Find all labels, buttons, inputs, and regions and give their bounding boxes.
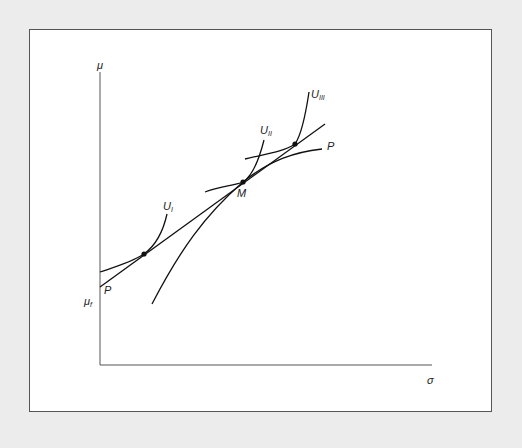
u1-label: UI xyxy=(163,200,173,213)
tangency-point-u1 xyxy=(141,251,146,256)
risk-free-label: μf xyxy=(83,295,93,308)
efficient-frontier-curve xyxy=(152,149,322,304)
market-portfolio-label: M xyxy=(237,187,247,199)
y-axis-label: μ xyxy=(96,59,103,71)
indifference-curve-u3 xyxy=(245,92,309,159)
tangency-point-u3 xyxy=(292,141,297,146)
line-end-label: P xyxy=(327,140,335,152)
capital-market-line xyxy=(100,124,325,287)
line-start-label: P xyxy=(104,284,112,296)
portfolio-diagram: μ σ μf P P M UI UII UIII xyxy=(0,0,522,448)
x-axis-label: σ xyxy=(427,374,434,386)
indifference-curve-u2 xyxy=(205,140,264,192)
u2-label: UII xyxy=(260,124,272,137)
u3-label: UIII xyxy=(311,88,325,101)
market-portfolio-point xyxy=(240,179,245,184)
